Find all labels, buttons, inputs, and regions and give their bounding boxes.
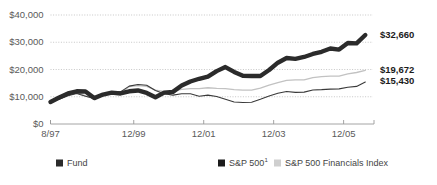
x-axis-tick-label: 12/99 [122,128,146,139]
y-axis-tick-labels: $40,000$30,000$20,000$10,000$0 [9,9,43,129]
legend-label-fund: Fund [67,158,88,168]
end-value-label: $32,660 [380,29,414,40]
x-axis-tick-label: 8/97 [41,128,60,139]
legend-label-s-p-500-financials-index: S&P 500 Financials Index [285,158,388,168]
y-axis-tick-label: $10,000 [9,91,43,102]
y-axis-tick-label: $30,000 [9,36,43,47]
x-axis-tick-label: 12/01 [192,128,216,139]
legend-marker-s-p-500 [218,160,225,167]
legend-superscript: 1 [264,157,268,163]
legend-label-s-p-500: S&P 5001 [229,157,268,168]
x-axis-tick-label: 12/05 [332,128,356,139]
legend-marker-s-p-500-financials-index [274,160,281,167]
y-axis-tick-label: $20,000 [9,64,43,75]
legend-marker-fund [56,160,63,167]
chart-legend: FundS&P 5001S&P 500 Financials Index [56,157,388,168]
x-axis-tick-label: 12/03 [262,128,286,139]
chart-svg: $40,000$30,000$20,000$10,000$0 8/9712/99… [0,0,437,185]
x-axis-tick-labels: 8/9712/9912/0112/0312/05 [41,128,355,139]
series-line-s-p-500 [51,82,366,103]
end-value-label: $19,672 [380,64,414,75]
gridlines-group [51,15,374,97]
x-axis [51,120,375,124]
y-axis-tick-label: $40,000 [9,9,43,20]
series-end-value-labels: $32,660$19,672$15,430 [380,29,414,87]
end-value-label: $15,430 [380,75,414,86]
series-lines-group [51,35,366,102]
series-line-fund [51,35,366,102]
performance-growth-chart: $40,000$30,000$20,000$10,000$0 8/9712/99… [0,0,437,185]
